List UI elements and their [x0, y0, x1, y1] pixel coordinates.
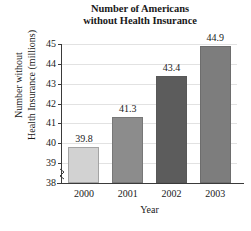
y-tick-label: 45 [46, 39, 56, 49]
x-tick-label-2002: 2002 [151, 188, 191, 199]
plot-area: 3839404142434445 39.841.343.444.9 200020… [62, 44, 237, 183]
chart-title: Number of Americans without Health Insur… [40, 3, 240, 27]
bar-2001 [112, 117, 143, 183]
y-axis-line [61, 44, 62, 183]
bar-value-label-2003: 44.9 [206, 33, 224, 43]
chart-title-line-1: Number of Americans [40, 3, 240, 15]
bar-2000 [68, 147, 99, 183]
bar-2003 [200, 46, 231, 183]
x-axis-title: Year [62, 204, 237, 215]
gridline [62, 44, 237, 45]
y-axis-title-line-2: Health Insurance (millions) [26, 15, 39, 155]
y-tick-label: 38 [46, 178, 56, 188]
bar-value-label-2001: 41.3 [119, 104, 137, 114]
x-axis-line [57, 183, 244, 184]
y-axis-title-line-1: Number without [13, 15, 26, 155]
bar-value-label-2002: 43.4 [163, 63, 181, 73]
x-tick-label-2003: 2003 [195, 188, 235, 199]
y-tick-label: 40 [46, 138, 56, 148]
bar-value-label-2000: 39.8 [75, 134, 93, 144]
bar-2002 [156, 76, 187, 183]
y-tick-label: 44 [46, 59, 56, 69]
y-axis-title: Number without Health Insurance (million… [13, 15, 39, 155]
chart-title-line-2: without Health Insurance [40, 15, 240, 27]
y-tick-label: 41 [46, 118, 56, 128]
bar-chart-figure: Number of Americans without Health Insur… [0, 0, 251, 231]
x-tick-label-2000: 2000 [64, 188, 104, 199]
y-tick-label: 42 [46, 99, 56, 109]
axis-break-icon [58, 168, 67, 181]
y-tick-label: 43 [46, 79, 56, 89]
y-tick-label: 39 [46, 158, 56, 168]
x-tick-label-2001: 2001 [108, 188, 148, 199]
